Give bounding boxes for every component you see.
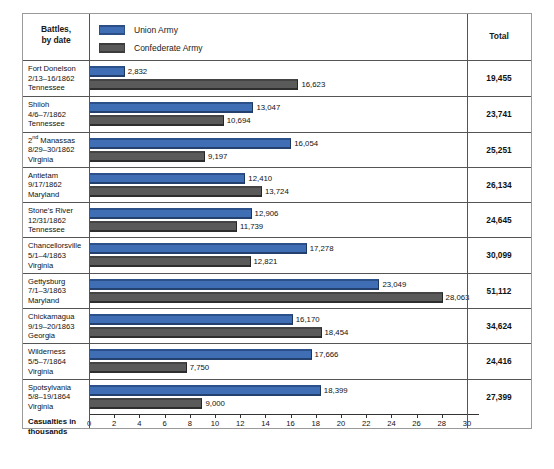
battle-date: 9/17/1862: [28, 180, 62, 189]
battle-name: Wilderness: [28, 347, 66, 356]
axis-title-line2: thousands: [28, 427, 67, 436]
confederate-bar-group: 10,694: [89, 115, 251, 126]
union-bar: [89, 173, 245, 184]
bar-plot-cell: 23,04928,063: [89, 274, 467, 308]
union-bar-value: 23,049: [382, 280, 406, 289]
x-axis-tick: [240, 414, 241, 418]
confederate-bar: [89, 151, 205, 162]
union-bar: [89, 385, 321, 396]
battles-header-line2: by date: [41, 35, 70, 45]
battle-state: Tennessee: [28, 83, 65, 92]
legend-swatch-confederate-icon: [99, 43, 125, 53]
battle-total: 30,099: [467, 250, 531, 260]
battle-date: 12/31/1862: [28, 216, 66, 225]
confederate-bar: [89, 327, 322, 338]
union-bar-value: 12,410: [248, 174, 272, 183]
union-bar-group: 18,399: [89, 385, 348, 396]
union-bar: [89, 66, 125, 77]
union-bar: [89, 349, 312, 360]
battle-date: 5/1–4/1863: [28, 251, 66, 260]
battle-total: 26,134: [467, 180, 531, 190]
battle-state: Georgia: [28, 331, 55, 340]
battle-label: Fort Donelson2/13–16/1862Tennessee: [28, 64, 88, 93]
battle-state: Maryland: [28, 190, 59, 199]
confederate-bar-group: 16,623: [89, 79, 325, 90]
x-axis-tick-label: 18: [312, 419, 320, 428]
x-axis-line: [89, 414, 479, 415]
table-row: 2nd Manassas8/29–30/1862Virginia16,0549,…: [23, 132, 531, 167]
battle-date: 4/6–7/1862: [28, 110, 66, 119]
x-axis-title: Casualties in thousands: [28, 417, 88, 436]
bar-plot-cell: 17,27812,821: [89, 238, 467, 272]
table-row: Wilderness5/5–7/1864Virginia17,6667,7502…: [23, 343, 531, 378]
x-axis-tick: [291, 414, 292, 418]
chart-header: Battles, by date Union Army Confederate …: [23, 14, 531, 60]
x-axis-tick-label: 12: [236, 419, 244, 428]
union-bar-group: 23,049: [89, 279, 406, 290]
x-axis-tick: [366, 414, 367, 418]
x-axis-tick: [215, 414, 216, 418]
battle-date: 5/5–7/1864: [28, 357, 66, 366]
x-axis-tick-label: 2: [112, 419, 116, 428]
battle-name: Spotsylvania: [28, 383, 71, 392]
confederate-bar: [89, 362, 187, 373]
table-row: Antietam9/17/1862Maryland12,41013,72426,…: [23, 167, 531, 202]
battle-state: Virginia: [28, 367, 53, 376]
confederate-bar: [89, 115, 224, 126]
battle-state: Virginia: [28, 261, 53, 270]
x-axis-tick-label: 28: [438, 419, 446, 428]
table-row: Stone's River12/31/1862Tennessee12,90611…: [23, 202, 531, 237]
bar-plot-cell: 16,0549,197: [89, 133, 467, 167]
battle-total: 24,645: [467, 215, 531, 225]
confederate-bar-value: 12,821: [254, 257, 278, 266]
total-column-header: Total: [467, 31, 531, 41]
battles-column-header: Battles, by date: [23, 24, 89, 46]
confederate-bar-value: 13,724: [265, 187, 289, 196]
battle-total: 34,624: [467, 321, 531, 331]
battle-total: 23,741: [467, 109, 531, 119]
x-axis-tick: [341, 414, 342, 418]
confederate-bar-value: 9,197: [208, 152, 228, 161]
battle-name: Gettysburg: [28, 277, 65, 286]
x-axis: Casualties in thousands 0246810121416182…: [23, 414, 531, 429]
battle-name: Shiloh: [28, 100, 49, 109]
battle-state: Tennessee: [28, 119, 65, 128]
confederate-bar: [89, 221, 237, 232]
union-bar: [89, 314, 293, 325]
union-bar-value: 2,832: [128, 67, 148, 76]
confederate-bar-group: 9,197: [89, 151, 227, 162]
battle-state: Virginia: [28, 155, 53, 164]
union-bar-value: 12,906: [255, 209, 279, 218]
battle-name: 2nd Manassas: [28, 136, 75, 145]
battle-name: Stone's River: [28, 206, 73, 215]
battle-date: 7/1–3/1863: [28, 286, 66, 295]
confederate-bar-value: 18,454: [325, 328, 349, 337]
x-axis-tick-label: 14: [261, 419, 269, 428]
battle-date: 5/8–19/1864: [28, 392, 70, 401]
x-axis-tick: [190, 414, 191, 418]
x-axis-tick: [265, 414, 266, 418]
battle-total: 27,399: [467, 392, 531, 402]
x-axis-tick: [442, 414, 443, 418]
union-bar-group: 16,054: [89, 138, 318, 149]
battle-label: Chickamagua9/19–20/1863Georgia: [28, 312, 88, 341]
confederate-bar-group: 28,063: [89, 292, 469, 303]
battle-state: Maryland: [28, 296, 59, 305]
battle-label: Spotsylvania5/8–19/1864Virginia: [28, 383, 88, 412]
x-axis-tick: [114, 414, 115, 418]
battle-name: Fort Donelson: [28, 64, 76, 73]
table-row: Fort Donelson2/13–16/1862Tennessee2,8321…: [23, 61, 531, 96]
battle-label: Gettysburg7/1–3/1863Maryland: [28, 277, 88, 306]
table-row: Chickamagua9/19–20/1863Georgia16,17018,4…: [23, 308, 531, 343]
x-axis-tick-label: 6: [162, 419, 166, 428]
confederate-bar: [89, 292, 443, 303]
confederate-bar-value: 28,063: [446, 293, 470, 302]
battle-date: 9/19–20/1863: [28, 322, 74, 331]
bar-plot-cell: 12,90611,739: [89, 203, 467, 237]
table-row: Gettysburg7/1–3/1863Maryland23,04928,063…: [23, 273, 531, 308]
union-bar-group: 16,170: [89, 314, 320, 325]
legend-item-union: Union Army: [99, 22, 203, 37]
legend-label-union: Union Army: [134, 25, 178, 35]
chart-legend: Union Army Confederate Army: [99, 22, 203, 58]
battle-date: 2/13–16/1862: [28, 74, 74, 83]
